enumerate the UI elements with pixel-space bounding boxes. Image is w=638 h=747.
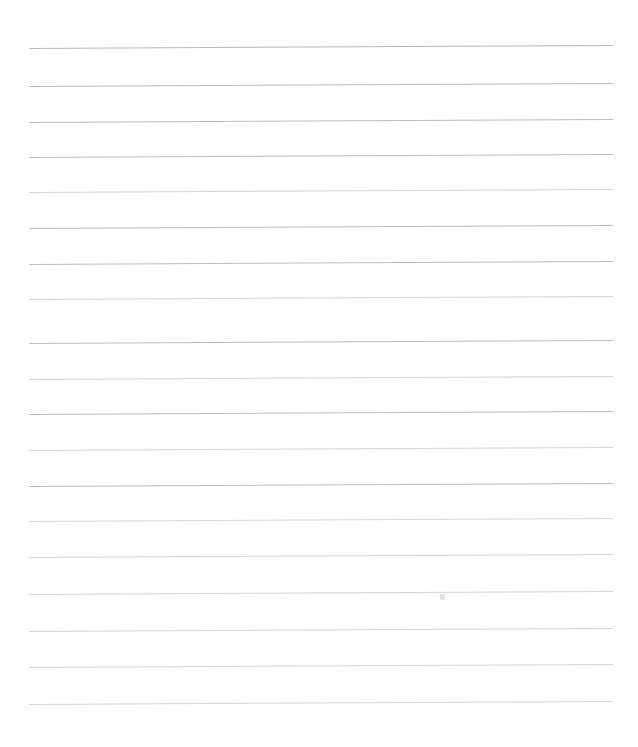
- rule-line: [29, 83, 613, 87]
- rule-line: [29, 554, 613, 558]
- rule-line: [29, 628, 613, 632]
- rule-line: [29, 340, 613, 344]
- rule-line: [29, 45, 613, 49]
- rule-line: [29, 376, 613, 380]
- rule-line: [29, 119, 613, 123]
- rule-line: [29, 591, 613, 595]
- rule-line: [29, 154, 613, 158]
- paper-texture: [0, 0, 638, 747]
- rule-line: [29, 225, 613, 229]
- rule-line: [29, 296, 613, 300]
- rule-line: [29, 447, 613, 451]
- writing-area: [0, 0, 638, 747]
- rule-line: [29, 411, 613, 415]
- rule-line: [29, 701, 613, 705]
- rule-line: [29, 518, 613, 522]
- rule-line: [29, 664, 613, 668]
- rule-line: [29, 261, 613, 265]
- scanned-page: [0, 0, 638, 747]
- rule-line: [29, 189, 613, 193]
- rule-line: [29, 483, 613, 487]
- smudge-mark: [440, 594, 445, 600]
